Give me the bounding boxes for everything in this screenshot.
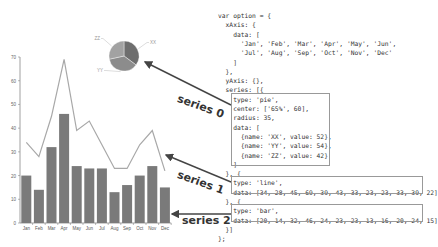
code-line: ]: [218, 58, 237, 68]
svg-text:70: 70: [11, 55, 17, 60]
svg-text:10: 10: [11, 197, 17, 202]
svg-text:Oct: Oct: [136, 226, 144, 231]
code-line: var option = {: [218, 11, 271, 21]
bar: [72, 166, 82, 223]
svg-text:May: May: [72, 226, 81, 231]
bar: [34, 190, 44, 223]
svg-text:Jun: Jun: [86, 226, 94, 231]
code-line: },: [218, 67, 233, 77]
pie-series-highlight-box: [231, 93, 330, 166]
bar: [59, 114, 69, 223]
code-line: data: [: [218, 30, 260, 40]
code-line: 'Jan', 'Feb', 'Mar', 'Apr', 'May', 'Jun'…: [218, 39, 396, 49]
svg-text:50: 50: [11, 102, 17, 107]
svg-text:20: 20: [11, 174, 17, 179]
svg-text:Nov: Nov: [148, 226, 157, 231]
code-line: xAxis: {: [218, 20, 256, 30]
svg-text:Sep: Sep: [123, 226, 132, 231]
pie-slice: [109, 41, 124, 59]
svg-text:Jul: Jul: [99, 226, 105, 231]
bar: [47, 147, 57, 223]
svg-text:Aug: Aug: [110, 226, 119, 231]
svg-text:30: 30: [11, 150, 17, 155]
bar: [160, 187, 170, 223]
bar: [147, 166, 157, 223]
svg-text:Jan: Jan: [23, 226, 31, 231]
bar-series: [21, 114, 170, 223]
svg-text:40: 40: [11, 126, 17, 131]
code-line: yAxis: {},: [218, 76, 264, 86]
pie-series: XXYYZZ: [95, 36, 157, 73]
bar: [122, 185, 132, 223]
svg-text:Feb: Feb: [35, 226, 43, 231]
svg-text:Dec: Dec: [161, 226, 170, 231]
bar: [84, 168, 94, 223]
svg-text:YY: YY: [97, 68, 103, 73]
svg-text:0: 0: [13, 221, 16, 226]
svg-text:ZZ: ZZ: [95, 36, 101, 41]
svg-text:Mar: Mar: [48, 226, 56, 231]
code-line: };: [218, 234, 226, 244]
svg-text:60: 60: [11, 79, 17, 84]
series-2-label: series 2: [182, 214, 231, 227]
bar: [97, 168, 107, 223]
line-series-highlight-box: [231, 176, 423, 194]
svg-text:Apr: Apr: [61, 226, 69, 231]
svg-text:XX: XX: [150, 40, 156, 45]
code-line: 'Jul', 'Aug', 'Sep', 'Oct', 'Nov', 'Dec': [218, 48, 392, 58]
bar: [135, 176, 145, 223]
x-axis-labels: JanFebMarAprMayJunJulAugSepOctNovDec: [23, 226, 170, 231]
bar-series-highlight-box: [231, 204, 423, 222]
bar: [110, 192, 120, 223]
bar: [21, 176, 31, 223]
